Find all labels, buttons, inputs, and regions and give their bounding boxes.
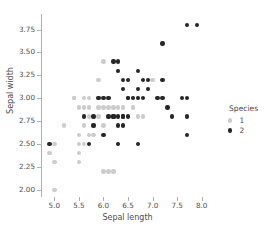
data-point [91,123,95,127]
data-point [47,142,51,146]
data-point [121,123,125,127]
data-point [96,114,100,118]
data-point [101,105,105,109]
x-tick-label: 8.0 [187,202,217,210]
data-point [82,114,86,118]
legend-marker-icon [228,118,232,122]
data-point [106,105,110,109]
data-point [82,142,86,146]
x-axis-label: Sepal length [41,213,214,222]
data-point [91,114,95,118]
data-point [52,188,56,192]
data-point [96,78,100,82]
y-tick-mark [37,75,41,76]
y-tick-mark [37,121,41,122]
data-point [106,96,110,100]
y-tick-mark [37,98,41,99]
data-point [136,142,140,146]
data-point [111,105,115,109]
legend-item-label: 1 [239,116,244,125]
data-point [126,114,130,118]
y-tick-mark [37,30,41,31]
data-point [101,123,105,127]
data-point [101,59,105,63]
data-point [116,105,120,109]
legend-entries: 12 [220,116,271,135]
y-tick-mark [37,52,41,53]
data-point [106,114,110,118]
data-point [121,105,125,109]
data-point [136,69,140,73]
data-point [160,41,164,45]
data-point [121,114,125,118]
data-point [136,114,140,118]
data-point [52,142,56,146]
data-point [101,169,105,173]
legend-item[interactable]: 2 [220,126,271,135]
data-point [131,105,135,109]
data-point [111,169,115,173]
data-point [101,133,105,137]
data-point [47,151,51,155]
data-point [106,169,110,173]
data-point [87,114,91,118]
data-point [77,133,81,137]
data-point [111,59,115,63]
data-point [185,114,189,118]
y-tick-label: 2.50 [0,140,35,148]
y-tick-mark [37,190,41,191]
data-point [87,105,91,109]
legend-item-label: 2 [239,126,244,135]
legend-item[interactable]: 1 [220,116,271,125]
y-tick-label: 3.75 [0,26,35,34]
data-point [165,105,169,109]
data-point [160,96,164,100]
data-point [101,96,105,100]
plot-area [42,14,214,197]
data-point [82,123,86,127]
y-tick-mark [37,167,41,168]
data-point [87,133,91,137]
data-point [77,105,81,109]
y-tick-mark [37,144,41,145]
scatter-plot-figure: 2.002.252.502.753.003.253.503.75 5.05.56… [0,0,271,233]
data-point [96,105,100,109]
data-point [62,123,66,127]
legend: Species 12 [220,104,271,136]
data-point [82,105,86,109]
legend-title: Species [229,104,271,113]
y-axis-label: Sepal width [6,61,15,121]
data-point [91,133,95,137]
data-point [160,78,164,82]
data-point [146,87,150,91]
y-tick-label: 2.00 [0,186,35,194]
data-point [111,114,115,118]
legend-marker-icon [228,128,232,132]
y-tick-label: 3.50 [0,48,35,56]
data-point [141,78,145,82]
data-point [141,114,145,118]
y-tick-label: 2.25 [0,163,35,171]
data-point [52,160,56,164]
data-point [146,78,150,82]
data-point [150,78,154,82]
data-point [87,142,91,146]
